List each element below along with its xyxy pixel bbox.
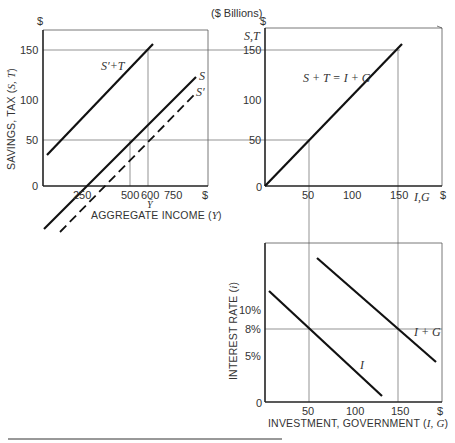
bottom-ytick-5: 5%: [245, 350, 261, 362]
bottom-xtick-50: 50: [302, 405, 314, 417]
label-i-plus-g: I + G: [413, 325, 441, 339]
left-y-dollar: $: [37, 15, 43, 27]
left-ytick-50: 50: [26, 134, 38, 146]
bottom-ytick-10: 10%: [239, 304, 261, 316]
label-s-prime: S′: [196, 85, 205, 99]
left-x-label: AGGREGATE INCOME (Y): [91, 209, 222, 221]
right-ytick-50: 50: [249, 134, 261, 146]
bottom-y-label: INTEREST RATE (i): [227, 282, 239, 380]
right-xtick-150: 150: [390, 189, 408, 201]
left-xtick-500: 500: [121, 189, 139, 201]
right-ytick-0: 0: [256, 181, 262, 193]
bottom-ytick-0: 0: [256, 397, 262, 409]
units-title: ($ Billions): [211, 7, 262, 19]
right-ytick-100: 100: [243, 94, 261, 106]
diagram-canvas: ($ Billions) S′+T S S′ $ 150 100 50 0 25…: [0, 0, 455, 443]
bottom-chart: I I + G 10% 8% 5% 0 50 100 150 $ INVESTM…: [227, 243, 448, 429]
left-ytick-150: 150: [20, 44, 38, 56]
left-y-label: SAVINGS, TAX (S, T): [5, 68, 17, 170]
bottom-xtick-dollar: $: [437, 405, 443, 417]
bottom-x-label: INVESTMENT, GOVERNMENT (I, G): [268, 417, 448, 429]
right-y-var: S,T: [244, 29, 261, 43]
left-xtick-250: 250: [73, 189, 91, 201]
left-ytick-100: 100: [20, 94, 38, 106]
left-ytick-0: 0: [32, 180, 38, 192]
right-xtick-dollar: $: [440, 189, 446, 201]
right-xtick-100: 100: [343, 189, 361, 201]
left-xtick-dollar: $: [202, 189, 208, 201]
bottom-xtick-100: 100: [346, 405, 364, 417]
series-s-prime-plus-t: [47, 44, 153, 155]
right-y-dollar: $: [260, 15, 266, 27]
right-xtick-50: 50: [302, 189, 314, 201]
series-i-plus-g: [317, 258, 436, 362]
right-x-var: I,G: [413, 190, 430, 204]
label-s-prime-plus-t: S′+T: [101, 59, 126, 73]
series-i: [269, 291, 382, 396]
label-equation: S + T = I + G: [303, 71, 371, 85]
bottom-xtick-150: 150: [391, 405, 409, 417]
series-s-plus-t-equals-i-plus-g: [265, 44, 402, 186]
right-ytick-150: 150: [243, 44, 261, 56]
label-i: I: [359, 358, 365, 372]
series-s: [44, 77, 196, 229]
left-xtick-750: 750: [164, 189, 182, 201]
bottom-ytick-8: 8%: [245, 323, 261, 335]
left-chart: S′+T S S′ $ 150 100 50 0 250 500 600 750…: [5, 15, 400, 232]
label-s: S: [199, 69, 205, 83]
